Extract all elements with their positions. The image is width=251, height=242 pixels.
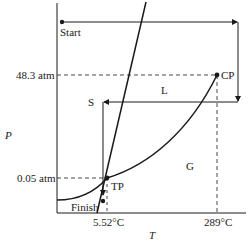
solid-region-label: S: [88, 97, 94, 108]
sublimation-curve: [57, 178, 107, 200]
liquid-region-label: L: [161, 85, 168, 96]
y-tick-triple-pressure: 0.05 atm: [17, 173, 56, 184]
triple-point-label: TP: [111, 181, 124, 192]
y-axis-label: P: [5, 130, 12, 141]
critical-point: [215, 73, 220, 78]
finish-point: [101, 199, 105, 203]
y-tick-critical-pressure: 48.3 atm: [16, 70, 55, 81]
gas-region-label: G: [186, 161, 194, 172]
finish-label: Finish: [71, 202, 99, 213]
start-label: Start: [60, 27, 81, 38]
x-tick-triple-temperature: 5.52°C: [93, 217, 124, 228]
phase-diagram: [0, 0, 251, 242]
critical-point-label: CP: [221, 70, 234, 81]
x-tick-critical-temperature: 289°C: [204, 217, 232, 228]
start-point: [60, 20, 64, 24]
x-axis-label: T: [149, 230, 155, 241]
triple-point: [105, 176, 110, 181]
